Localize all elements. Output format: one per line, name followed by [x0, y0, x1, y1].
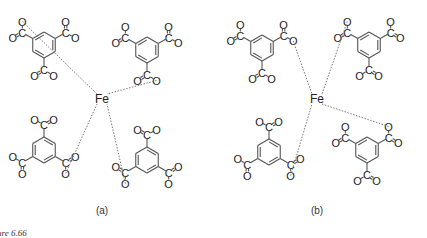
oxygen-atom: O	[174, 161, 183, 173]
panel-b: COOCOOCOOCOOCOOCOOCOOCOOCOOCOOCOOCOOFe(b…	[227, 16, 405, 217]
oxygen-atom: O	[236, 19, 245, 31]
ligand-btc: COOCOOCOO	[112, 124, 183, 190]
oxygen-atom: O	[267, 73, 276, 85]
ligand-btc: COOCOOCOO	[234, 116, 305, 182]
oxygen-atom: O	[243, 170, 252, 182]
ligand-btc: COOCOOCOO	[332, 121, 403, 187]
oxygen-atom: O	[343, 16, 352, 28]
carbon-atom: C	[62, 27, 70, 39]
oxygen-atom: O	[334, 32, 343, 44]
carbon-atom: C	[363, 169, 371, 181]
oxygen-atom: O	[355, 70, 364, 82]
oxygen-atom: O	[248, 73, 257, 85]
oxygen-atom: O	[396, 32, 405, 44]
oxygen-atom: O	[112, 161, 121, 173]
oxygen-atom: O	[372, 175, 381, 187]
iron-center: Fe	[95, 92, 109, 106]
ligand-btc: COOCOOCOO	[9, 16, 80, 82]
carbon-atom: C	[258, 67, 266, 79]
figure-caption: ure 6.66	[0, 228, 27, 238]
oxygen-atom: O	[71, 32, 80, 44]
oxygen-atom: O	[386, 16, 395, 28]
oxygen-atom: O	[112, 37, 121, 49]
carbon-atom: C	[143, 69, 151, 81]
ligand-btc: COOCOOCOO	[334, 16, 405, 82]
oxygen-atom: O	[30, 114, 39, 126]
oxygen-atom: O	[121, 178, 130, 190]
oxygen-atom: O	[9, 151, 18, 163]
ligand-btc: COOCOOCOO	[227, 19, 298, 85]
oxygen-atom: O	[133, 124, 142, 136]
ligand-btc: COOCOOCOO	[9, 114, 80, 180]
oxygen-atom: O	[71, 151, 80, 163]
carbon-atom: C	[40, 119, 48, 131]
oxygen-atom: O	[384, 121, 393, 133]
carbon-atom: C	[143, 129, 151, 141]
carbon-atom: C	[265, 121, 273, 133]
oxygen-atom: O	[121, 21, 130, 33]
oxygen-atom: O	[274, 116, 283, 128]
carbon-atom: C	[365, 64, 373, 76]
oxygen-atom: O	[279, 19, 288, 31]
chemical-structure-diagram: COOCOOCOOCOOCOOCOOCOOCOOCOOCOOCOOCOOFe(a…	[0, 0, 427, 238]
oxygen-atom: O	[353, 175, 362, 187]
oxygen-atom: O	[255, 116, 264, 128]
oxygen-atom: O	[152, 75, 161, 87]
iron-center: Fe	[310, 92, 324, 106]
oxygen-atom: O	[234, 153, 243, 165]
panel-a: COOCOOCOOCOOCOOCOOCOOCOOCOOCOOCOOCOOFe(a…	[9, 16, 183, 217]
carbon-atom: C	[40, 64, 48, 76]
oxygen-atom: O	[49, 114, 58, 126]
oxygen-atom: O	[164, 178, 173, 190]
oxygen-atom: O	[174, 37, 183, 49]
carbon-atom: C	[280, 30, 288, 42]
ligand-btc: COOCOOCOO	[112, 21, 183, 87]
oxygen-atom: O	[9, 32, 18, 44]
oxygen-atom: O	[227, 35, 236, 47]
carbon-atom: C	[165, 32, 173, 44]
oxygen-atom: O	[394, 137, 403, 149]
oxygen-atom: O	[18, 168, 27, 180]
oxygen-atom: O	[30, 70, 39, 82]
oxygen-atom: O	[152, 124, 161, 136]
panel-label: (a)	[96, 205, 108, 216]
oxygen-atom: O	[332, 137, 341, 149]
oxygen-atom: O	[374, 70, 383, 82]
oxygen-atom: O	[61, 16, 70, 28]
oxygen-atom: O	[341, 121, 350, 133]
oxygen-atom: O	[49, 70, 58, 82]
panel-label: (b)	[311, 205, 323, 216]
oxygen-atom: O	[164, 21, 173, 33]
